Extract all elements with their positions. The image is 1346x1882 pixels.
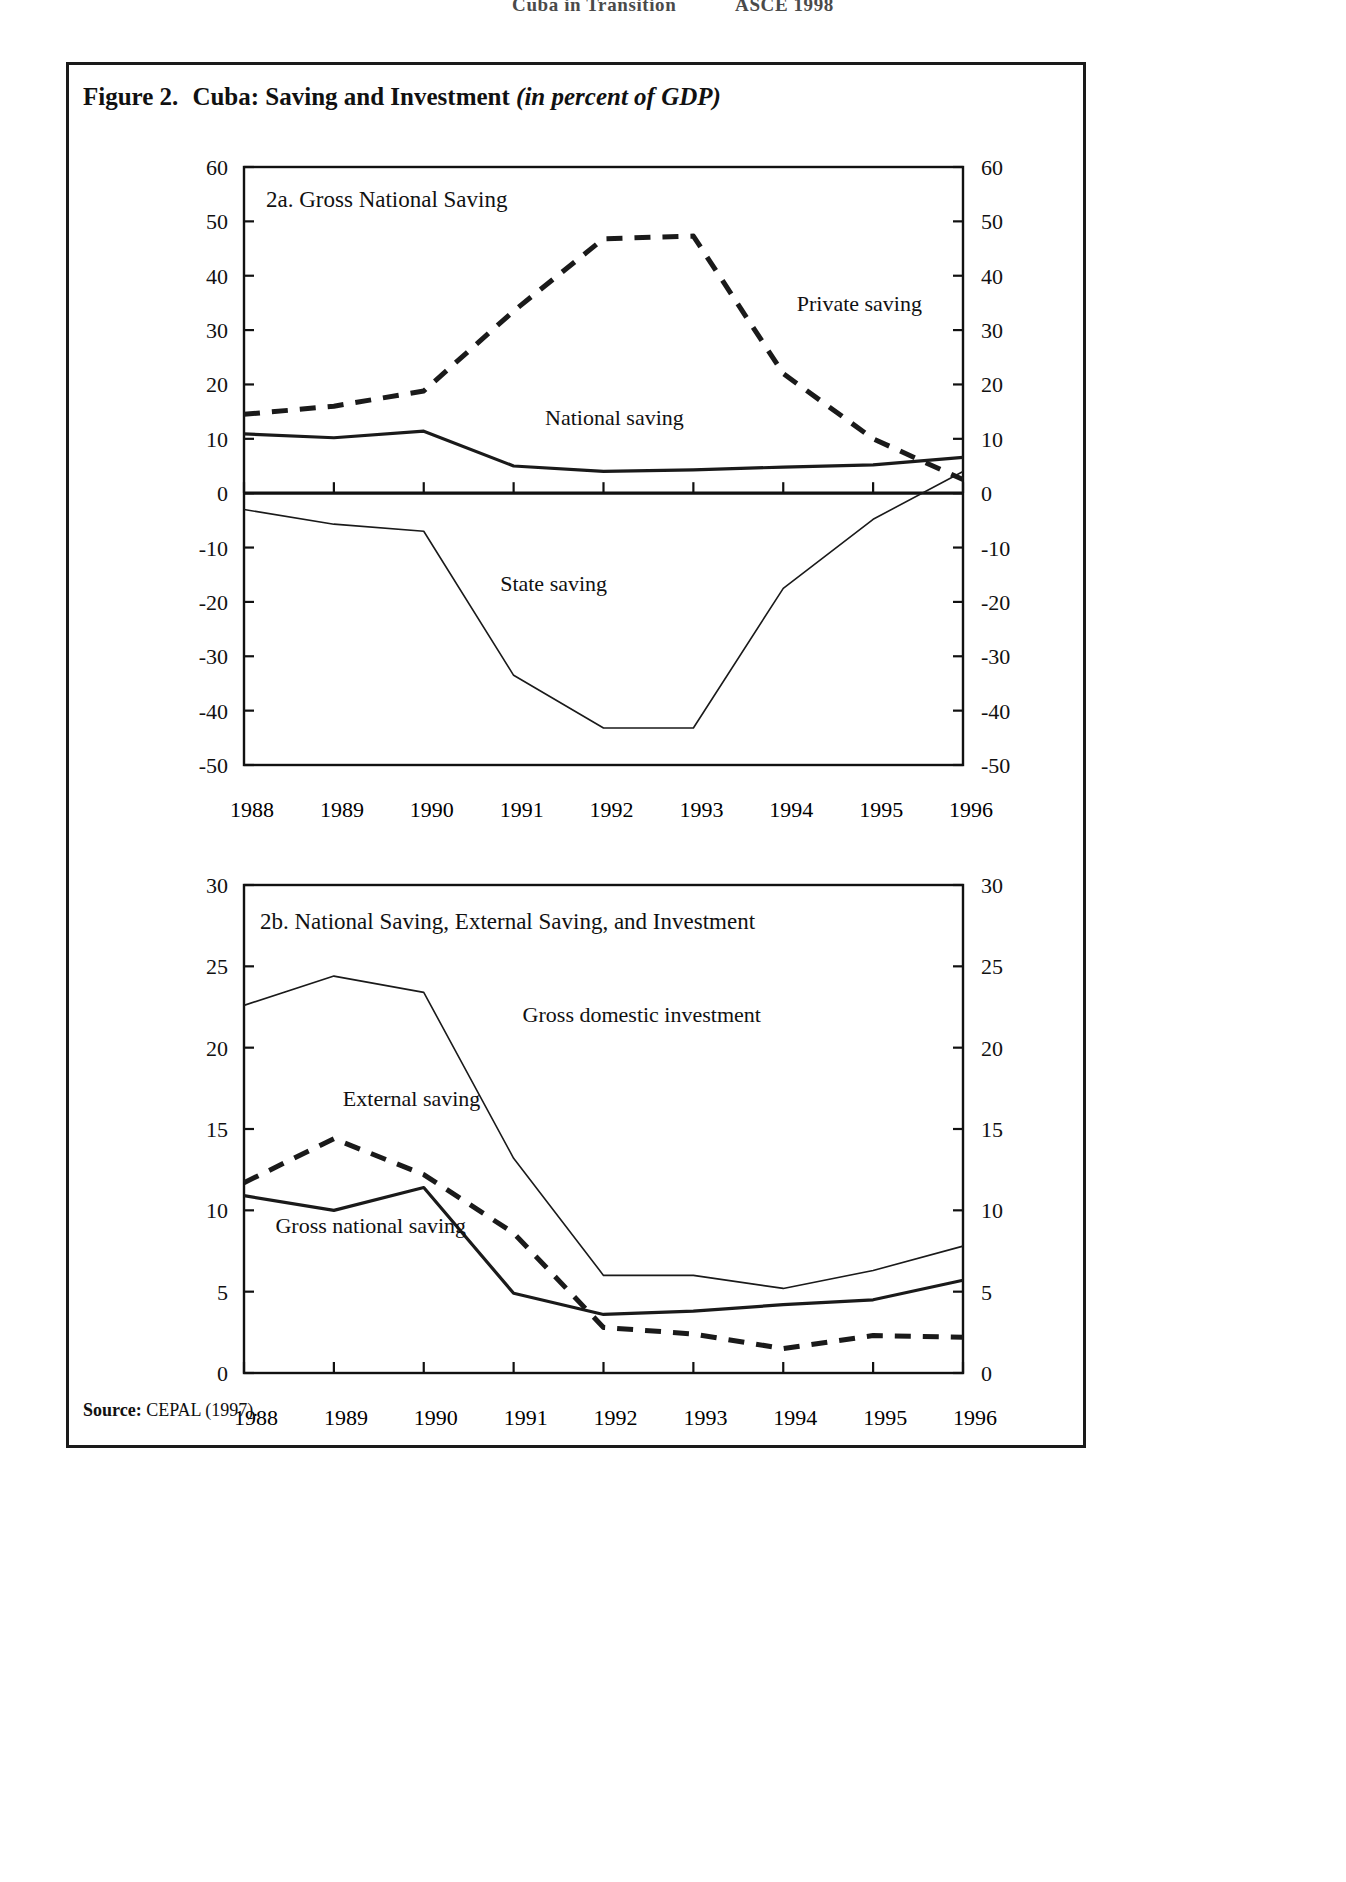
y-tick-label-left: 5 xyxy=(217,1280,228,1305)
x-axis-year-label: 1991 xyxy=(504,1405,548,1430)
y-tick-label-right: 50 xyxy=(981,209,1003,234)
y-tick-label-left: 15 xyxy=(206,1117,228,1142)
source-label: Source: xyxy=(83,1400,142,1420)
y-tick-label-left: 25 xyxy=(206,954,228,979)
series-label: Private saving xyxy=(797,291,922,316)
y-tick-label-left: -20 xyxy=(199,590,228,615)
y-tick-label-right: 30 xyxy=(981,875,1003,898)
y-tick-label-right: 0 xyxy=(981,1361,992,1386)
x-axis-year-label: 1993 xyxy=(683,1405,727,1430)
series-line xyxy=(244,431,963,471)
running-head: Cuba in Transition ASCE 1998 xyxy=(0,0,1346,16)
figure-frame: Figure 2.Cuba: Saving and Investment (in… xyxy=(66,62,1086,1448)
figure-title: Figure 2.Cuba: Saving and Investment (in… xyxy=(83,83,721,111)
y-tick-label-left: 10 xyxy=(206,1198,228,1223)
y-tick-label-left: 40 xyxy=(206,264,228,289)
series-line xyxy=(244,236,963,480)
x-axis-year-label: 1992 xyxy=(594,1405,638,1430)
series-label: National saving xyxy=(545,405,684,430)
chart-svg: 005510101515202025253030Gross domestic i… xyxy=(69,875,1083,1455)
series-line xyxy=(244,1188,963,1315)
y-tick-label-right: 10 xyxy=(981,1198,1003,1223)
y-tick-label-left: 30 xyxy=(206,318,228,343)
y-tick-label-left: 50 xyxy=(206,209,228,234)
x-axis-year-label: 1995 xyxy=(863,1405,907,1430)
y-tick-label-right: -50 xyxy=(981,753,1010,778)
y-tick-label-left: 10 xyxy=(206,427,228,452)
running-head-right: ASCE 1998 xyxy=(735,0,834,16)
chart-panel-2b: 005510101515202025253030Gross domestic i… xyxy=(69,875,1083,1455)
running-head-left: Cuba in Transition xyxy=(512,0,676,16)
chart-svg: -50-50-40-40-30-30-20-20-10-100010102020… xyxy=(69,157,1083,857)
y-tick-label-right: -40 xyxy=(981,699,1010,724)
x-axis-year-label: 1994 xyxy=(769,797,813,822)
y-tick-label-left: -10 xyxy=(199,536,228,561)
y-tick-label-left: -30 xyxy=(199,644,228,669)
y-tick-label-left: 30 xyxy=(206,875,228,898)
series-label: State saving xyxy=(500,571,607,596)
x-axis-year-label: 1991 xyxy=(500,797,544,822)
y-tick-label-right: 15 xyxy=(981,1117,1003,1142)
series-line xyxy=(244,1139,963,1349)
y-tick-label-left: 20 xyxy=(206,1036,228,1061)
y-tick-label-right: 25 xyxy=(981,954,1003,979)
y-tick-label-left: 0 xyxy=(217,1361,228,1386)
y-tick-label-left: -40 xyxy=(199,699,228,724)
series-label: External saving xyxy=(343,1086,480,1111)
y-tick-label-left: 20 xyxy=(206,372,228,397)
figure-title-italic: (in percent of GDP) xyxy=(516,83,721,110)
source-note: Source: CEPAL (1997). xyxy=(83,1400,258,1421)
y-tick-label-right: 20 xyxy=(981,1036,1003,1061)
x-axis-year-label: 1990 xyxy=(414,1405,458,1430)
x-axis-year-label: 1990 xyxy=(410,797,454,822)
series-label: Gross domestic investment xyxy=(523,1002,761,1027)
x-axis-year-label: 1994 xyxy=(773,1405,817,1430)
x-axis-year-label: 1996 xyxy=(949,797,993,822)
y-tick-label-left: 60 xyxy=(206,157,228,180)
series-line xyxy=(244,471,963,728)
x-axis-year-label: 1995 xyxy=(859,797,903,822)
y-tick-label-right: 40 xyxy=(981,264,1003,289)
x-axis-year-label: 1989 xyxy=(320,797,364,822)
source-text: CEPAL (1997). xyxy=(146,1400,258,1420)
x-axis-year-label: 1989 xyxy=(324,1405,368,1430)
y-tick-label-right: -20 xyxy=(981,590,1010,615)
chart-panel-2a: -50-50-40-40-30-30-20-20-10-100010102020… xyxy=(69,157,1083,857)
y-tick-label-right: 30 xyxy=(981,318,1003,343)
x-axis-year-label: 1992 xyxy=(590,797,634,822)
figure-number: Figure 2. xyxy=(83,83,178,110)
y-tick-label-left: 0 xyxy=(217,481,228,506)
y-tick-label-right: 5 xyxy=(981,1280,992,1305)
y-tick-label-left: -50 xyxy=(199,753,228,778)
x-axis-year-label: 1996 xyxy=(953,1405,997,1430)
y-tick-label-right: 0 xyxy=(981,481,992,506)
panel-title: 2b. National Saving, External Saving, an… xyxy=(260,909,756,934)
y-tick-label-right: -10 xyxy=(981,536,1010,561)
y-tick-label-right: 10 xyxy=(981,427,1003,452)
x-axis-year-label: 1993 xyxy=(679,797,723,822)
panel-title: 2a. Gross National Saving xyxy=(266,187,508,212)
series-label: Gross national saving xyxy=(275,1213,466,1238)
y-tick-label-right: 60 xyxy=(981,157,1003,180)
y-tick-label-right: 20 xyxy=(981,372,1003,397)
y-tick-label-right: -30 xyxy=(981,644,1010,669)
x-axis-year-label: 1988 xyxy=(230,797,274,822)
figure-title-main: Cuba: Saving and Investment xyxy=(192,83,509,110)
